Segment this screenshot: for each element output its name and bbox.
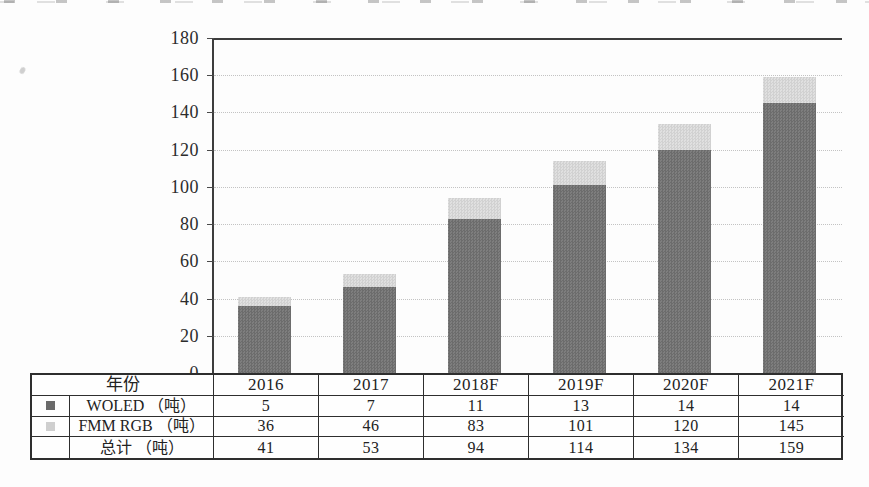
table-year-header: 2021F [739, 375, 844, 396]
table-value-cell: 145 [739, 417, 844, 438]
y-axis-tick-60 [207, 261, 214, 262]
bar-segment-2019F-bottom [553, 185, 606, 373]
y-axis-tick-40 [207, 299, 214, 300]
legend-swatch-icon [46, 422, 55, 431]
y-axis-tick-140 [207, 112, 214, 113]
scan-artifact-strip [0, 0, 869, 5]
table-year-header: 2020F [634, 375, 739, 396]
bar-segment-2018F-bottom [448, 219, 501, 374]
gridline-20 [214, 336, 842, 337]
table-corner-cell: 年份 [32, 375, 214, 396]
table-year-header: 2016 [214, 375, 319, 396]
table-row-label: WOLED （吨） [70, 396, 214, 417]
table-value-cell: 159 [739, 437, 844, 458]
table-value-cell: 53 [319, 437, 424, 458]
gridline-80 [214, 224, 842, 225]
y-axis-tick-160 [207, 75, 214, 76]
bar-segment-2020F-bottom [658, 150, 711, 373]
bar-segment-2017-top [343, 274, 396, 287]
y-axis-tick-label: 180 [130, 27, 199, 49]
y-axis-tick-label: 140 [130, 101, 199, 123]
table-value-cell: 94 [424, 437, 529, 458]
y-axis-tick-120 [207, 150, 214, 151]
data-table: 年份201620172018F2019F2020F2021FWOLED （吨）5… [30, 373, 843, 460]
bar-segment-2018F-top [448, 198, 501, 219]
y-axis-tick-label: 60 [130, 250, 199, 272]
table-value-cell: 11 [424, 396, 529, 417]
y-axis-tick-label: 40 [130, 288, 199, 310]
legend-swatch-cell [32, 417, 70, 438]
gridline-100 [214, 187, 842, 188]
gridline-40 [214, 299, 842, 300]
gridline-140 [214, 112, 842, 113]
gridline-160 [214, 75, 842, 76]
y-axis-tick-label: 80 [130, 213, 199, 235]
table-value-cell: 5 [214, 396, 319, 417]
y-axis-tick-label: 120 [130, 139, 199, 161]
table-value-cell: 120 [634, 417, 739, 438]
table-value-cell: 14 [739, 396, 844, 417]
table-value-cell: 134 [634, 437, 739, 458]
table-value-cell: 101 [529, 417, 634, 438]
y-axis-tick-label: 20 [130, 325, 199, 347]
table-year-header: 2018F [424, 375, 529, 396]
y-axis-tick-100 [207, 187, 214, 188]
table-row-label: 总计 （吨） [70, 437, 214, 458]
y-axis-tick-label: 100 [130, 176, 199, 198]
scanned-chart-page: 020406080100120140160180 年份201620172018F… [0, 0, 869, 487]
table-value-cell: 114 [529, 437, 634, 458]
legend-swatch-cell [32, 396, 70, 417]
table-value-cell: 83 [424, 417, 529, 438]
table-year-header: 2017 [319, 375, 424, 396]
bar-segment-2017-bottom [343, 287, 396, 373]
table-value-cell: 36 [214, 417, 319, 438]
bar-segment-2020F-top [658, 124, 711, 150]
gridline-60 [214, 261, 842, 262]
legend-swatch-icon [46, 401, 55, 410]
bar-segment-2021F-bottom [763, 103, 816, 373]
y-axis-tick-20 [207, 336, 214, 337]
table-row-label: FMM RGB （吨） [70, 417, 214, 438]
y-axis-labels: 020406080100120140160180 [130, 38, 205, 373]
y-axis-tick-80 [207, 224, 214, 225]
table-value-cell: 14 [634, 396, 739, 417]
table-value-cell: 41 [214, 437, 319, 458]
bar-segment-2016-bottom [238, 306, 291, 373]
table-value-cell: 7 [319, 396, 424, 417]
table-year-header: 2019F [529, 375, 634, 396]
bar-segment-2019F-top [553, 161, 606, 185]
legend-swatch-cell [32, 437, 70, 458]
scan-speck [19, 66, 27, 75]
gridline-120 [214, 150, 842, 151]
table-value-cell: 13 [529, 396, 634, 417]
table-value-cell: 46 [319, 417, 424, 438]
plot-area [212, 38, 842, 373]
bar-segment-2021F-top [763, 77, 816, 103]
bar-segment-2016-top [238, 297, 291, 306]
y-axis-tick-label: 160 [130, 64, 199, 86]
y-axis-tick-180 [207, 38, 214, 39]
